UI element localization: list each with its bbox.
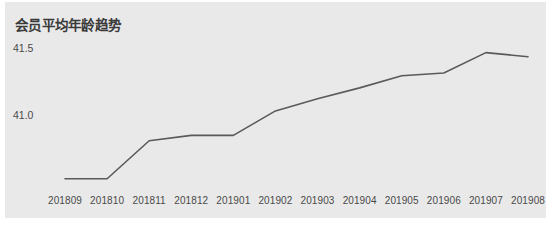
- x-axis-tick-label-201905: 201905: [385, 195, 419, 206]
- x-axis-tick-label-201810: 201810: [90, 195, 124, 206]
- x-axis-tick-label-201811: 201811: [133, 195, 166, 206]
- x-axis-tick-label-201908: 201908: [511, 195, 545, 206]
- y-axis-tick-label-41-0: 41.0: [13, 109, 33, 121]
- x-axis-tick-label-201901: 201901: [216, 195, 250, 206]
- x-axis-tick-label-201903: 201903: [301, 195, 335, 206]
- line-chart-svg: [5, 35, 546, 195]
- x-axis-tick-label-201902: 201902: [258, 195, 292, 206]
- y-axis-tick-label-41-5: 41.5: [13, 42, 33, 54]
- x-axis-tick-label-201812: 201812: [174, 195, 208, 206]
- page-title: 会员平均年龄趋势: [15, 14, 121, 34]
- plot-area: 41.5 41.0: [5, 35, 546, 195]
- chart-card: 会员平均年龄趋势 41.5 41.0 201809201810201811201…: [5, 2, 546, 218]
- x-axis-tick-label-201809: 201809: [48, 195, 82, 206]
- x-axis: 2018092018102018112018122019012019022019…: [5, 195, 546, 217]
- x-axis-tick-label-201906: 201906: [427, 195, 461, 206]
- x-axis-tick-label-201904: 201904: [343, 195, 377, 206]
- x-axis-tick-label-201907: 201907: [469, 195, 503, 206]
- series-line-member-average-age: [65, 53, 528, 179]
